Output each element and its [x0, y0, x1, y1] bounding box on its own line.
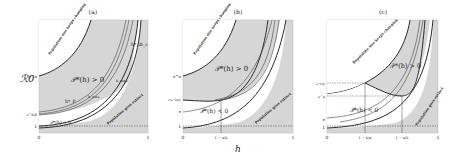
- panel-c-ytick-e: e: [323, 117, 326, 122]
- panel-c-xtick-1: 1: [437, 135, 440, 140]
- panel-b-ytick-1: 1: [178, 124, 181, 129]
- panel-a-curve-label-hmax2: h_max: [116, 79, 127, 83]
- panel-b-xtick-0: 0: [182, 135, 185, 140]
- panel-a: (a) 𝒫*(h) > 0 𝒫*(h) < 0 Population size …: [20, 2, 150, 140]
- panel-a-ytick-1: 1: [34, 124, 37, 129]
- panel-c-ytick-eb-beta: e^b/β: [316, 82, 325, 86]
- panel-a-curve-label-hmax1: h_max: [88, 95, 99, 99]
- panel-c-ytick-1: 1: [322, 125, 325, 130]
- panel-b-ytick-ea: e^a: [173, 74, 182, 79]
- panel-a-label-positive: 𝒫*(h) > 0: [71, 76, 104, 84]
- panel-a-xtick-1: 1: [147, 135, 150, 140]
- panel-b-title: (b): [234, 8, 243, 15]
- panel-b: (b) 𝒫*(h) > 0 𝒫*(h) < 0 Population size …: [168, 2, 295, 154]
- panel-a-ytick-eb-beta: e^b/β: [27, 113, 37, 117]
- shared-y-axis-label: ℛ0: [20, 73, 35, 84]
- panel-c-xtick-1-b-a: 1 − b/a: [359, 136, 372, 140]
- panel-c-label-positive: 𝒫*(h) > 0: [390, 62, 421, 70]
- panel-b-xtick-1: 1: [292, 135, 295, 140]
- panel-c-ytick-ea: e^a: [318, 95, 325, 99]
- panel-b-xtick-1-a-b: 1 − a/b: [215, 136, 229, 140]
- panel-a-title: (a): [89, 8, 97, 15]
- panel-a-xtick-0: 0: [38, 135, 41, 140]
- panel-c-xtick-1-a-b: 1 − a/b: [396, 136, 410, 140]
- panel-b-label-negative: 𝒫*(h) < 0: [200, 107, 228, 114]
- panel-c-xtick-0: 0: [326, 135, 329, 140]
- panel-c-label-negative: 𝒫*(h) < 0: [350, 106, 378, 113]
- panel-c-title: (c): [379, 8, 387, 15]
- panel-b-ytick-e: e: [179, 109, 182, 114]
- figure-canvas: (a) 𝒫*(h) > 0 𝒫*(h) < 0 Population size …: [0, 0, 456, 159]
- panel-b-ytick-sqrt: √(e^b/β): [168, 98, 181, 102]
- shared-x-axis-label: h: [235, 144, 241, 154]
- panel-a-label-negative: 𝒫*(h) < 0: [50, 120, 71, 125]
- panel-b-label-positive: 𝒫*(h) > 0: [215, 65, 248, 73]
- panel-c: (c) 𝒫*(h) > 0 𝒫*(h) < 0 Population size …: [316, 8, 445, 140]
